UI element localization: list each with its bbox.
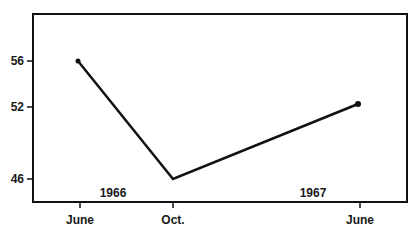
x-tick-label: Oct.: [161, 213, 184, 227]
data-line: [78, 61, 358, 179]
y-axis: 56 52 46: [11, 54, 33, 186]
y-tick-label: 56: [11, 54, 25, 68]
year-label-1967: 1967: [300, 186, 327, 200]
y-tick-label: 52: [11, 100, 25, 114]
data-point-june-1967: [355, 101, 361, 107]
y-tick-label: 46: [11, 172, 25, 186]
line-chart: 56 52 46 June Oct. June 1966 1967: [0, 0, 415, 233]
x-axis: June Oct. June: [66, 202, 374, 227]
year-label-1966: 1966: [100, 186, 127, 200]
x-tick-label: June: [66, 213, 94, 227]
data-point-june-1966: [76, 59, 81, 64]
x-tick-label: June: [346, 213, 374, 227]
